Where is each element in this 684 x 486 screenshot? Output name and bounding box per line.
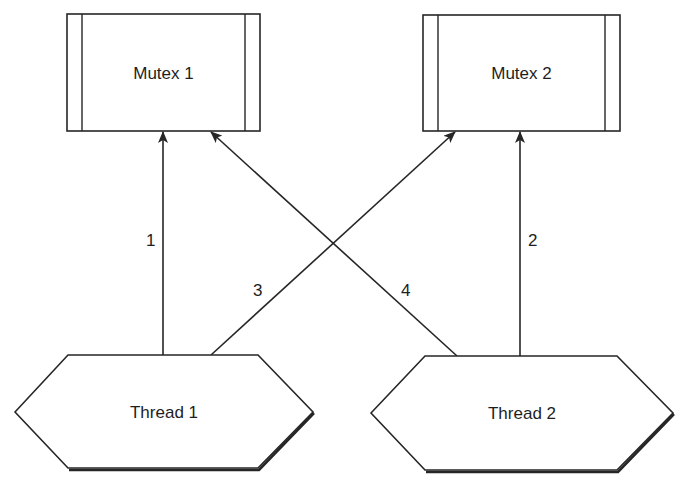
mutex-box-mutex2: Mutex 2 <box>423 15 620 131</box>
edge-edge4: 4 <box>211 132 457 356</box>
edge-label: 2 <box>528 231 537 250</box>
edge-label: 1 <box>146 231 155 250</box>
mutex-box-mutex1: Mutex 1 <box>67 14 260 131</box>
thread-label: Thread 2 <box>488 404 556 423</box>
thread-hexagon-thread1: Thread 1 <box>15 355 314 470</box>
edge-label: 3 <box>253 281 262 300</box>
deadlock-diagram: 1234 Mutex 1Mutex 2 Thread 1Thread 2 <box>0 0 684 486</box>
threads: Thread 1Thread 2 <box>15 355 674 472</box>
edge-edge2: 2 <box>520 132 537 356</box>
mutexes: Mutex 1Mutex 2 <box>67 14 620 131</box>
thread-label: Thread 1 <box>130 403 198 422</box>
mutex-label: Mutex 2 <box>491 64 551 83</box>
edge-label: 4 <box>401 281 410 300</box>
arrow-icon <box>211 132 457 356</box>
edges: 1234 <box>146 132 537 356</box>
thread-hexagon-thread2: Thread 2 <box>371 356 674 472</box>
mutex-label: Mutex 1 <box>133 64 193 83</box>
edge-edge1: 1 <box>146 132 163 355</box>
